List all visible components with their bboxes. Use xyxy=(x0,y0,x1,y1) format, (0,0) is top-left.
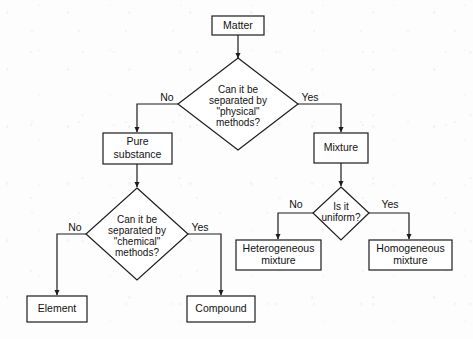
edge-chemical-no-to-element xyxy=(57,234,86,295)
flowchart-diagram: Matter Can it be separated by "physical"… xyxy=(0,0,473,339)
edge-label-physical-yes: Yes xyxy=(301,91,318,103)
heterogeneous-line-2: mixture xyxy=(261,254,296,266)
physical-question-line-2: separated by xyxy=(209,95,267,106)
node-homogeneous-mixture[interactable]: Homogeneous mixture xyxy=(369,240,452,270)
uniform-question-line-1: Is it xyxy=(333,201,349,212)
node-mixture[interactable]: Mixture xyxy=(314,133,368,163)
edge-label-chemical-yes: Yes xyxy=(191,221,208,233)
pure-substance-line-1: Pure xyxy=(126,135,148,147)
homogeneous-line-1: Homogeneous xyxy=(376,242,444,254)
node-compound[interactable]: Compound xyxy=(187,296,255,322)
physical-question-line-3: "physical" xyxy=(216,106,260,117)
uniform-question-line-2: uniform? xyxy=(322,212,361,223)
chemical-question-line-2: separated by xyxy=(108,225,166,236)
node-matter-label: Matter xyxy=(223,19,253,31)
edge-physical-yes-to-mixture xyxy=(298,104,341,132)
edge-uniform-yes-to-homogeneous xyxy=(369,213,409,239)
node-heterogeneous-mixture[interactable]: Heterogeneous mixture xyxy=(236,240,321,270)
node-physical-question[interactable]: Can it be separated by "physical" method… xyxy=(178,58,298,150)
edge-label-uniform-yes: Yes xyxy=(381,198,398,210)
edge-uniform-no-to-heterogeneous xyxy=(278,213,313,239)
chemical-question-line-1: Can it be xyxy=(117,214,157,225)
chemical-question-line-4: methods? xyxy=(115,247,159,258)
node-matter[interactable]: Matter xyxy=(212,16,264,35)
node-element[interactable]: Element xyxy=(27,296,87,322)
node-mixture-label: Mixture xyxy=(324,141,359,153)
node-element-label: Element xyxy=(38,302,77,314)
node-compound-label: Compound xyxy=(195,302,247,314)
node-pure-substance[interactable]: Pure substance xyxy=(103,133,172,164)
pure-substance-line-2: substance xyxy=(114,148,162,160)
heterogeneous-line-1: Heterogeneous xyxy=(243,242,315,254)
edge-label-physical-no: No xyxy=(160,91,174,103)
edge-physical-no-to-pure-substance xyxy=(137,104,178,132)
physical-question-line-1: Can it be xyxy=(218,84,258,95)
homogeneous-line-2: mixture xyxy=(393,254,428,266)
physical-question-line-4: methods? xyxy=(216,117,260,128)
edge-label-uniform-no: No xyxy=(289,198,303,210)
chemical-question-line-3: "chemical" xyxy=(114,236,161,247)
edge-chemical-yes-to-compound xyxy=(188,234,221,295)
flowchart-canvas: Matter Can it be separated by "physical"… xyxy=(0,0,473,339)
node-uniform-question[interactable]: Is it uniform? xyxy=(313,187,369,240)
edge-label-chemical-no: No xyxy=(68,221,82,233)
node-chemical-question[interactable]: Can it be separated by "chemical" method… xyxy=(86,188,188,280)
